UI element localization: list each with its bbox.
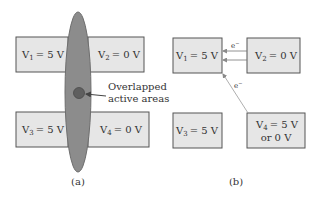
label-v4-b-line2: or 0 V [261, 132, 293, 143]
figure: V1= 5 V V2= 0 V V3= 5 V V4= 0 V Overlapp… [0, 0, 318, 201]
electron-label-top: e− [231, 40, 239, 50]
overlap-area-dot [74, 88, 85, 99]
panel-a: V1= 5 V V2= 0 V V3= 5 V V4= 0 V Overlapp… [16, 12, 169, 187]
electron-label-diagonal: e− [234, 80, 242, 90]
caption-b: (b) [229, 176, 243, 187]
panel-b: e− e− V1= 5 V V2= 0 V V3= 5 V V4= 5 V or… [173, 38, 305, 187]
annotation-line1: Overlapped [108, 81, 167, 92]
annotation-line2: active areas [108, 93, 169, 104]
caption-a: (a) [71, 176, 85, 187]
electron-arrow-diagonal [223, 74, 248, 113]
